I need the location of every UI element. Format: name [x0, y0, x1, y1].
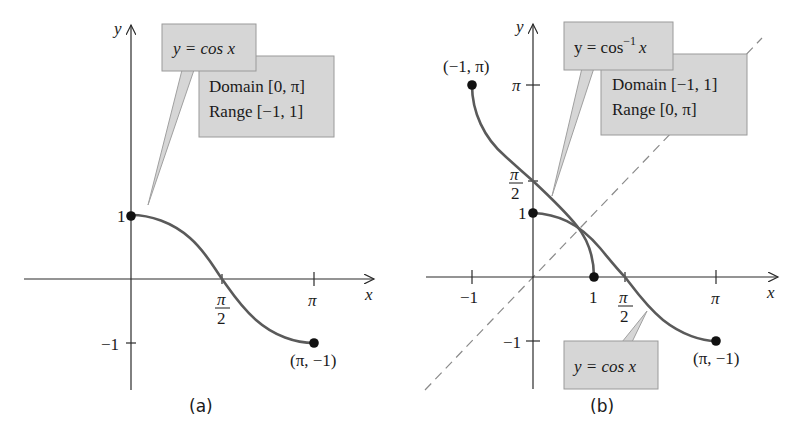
caption-b: (b) — [590, 396, 614, 416]
point-b-start-label: (−1, π) — [443, 57, 490, 76]
tick-label-b-x-pi: π — [711, 289, 720, 308]
point-b-cos-start — [528, 208, 538, 218]
point-b-arccos-end — [589, 272, 599, 282]
tick-label-b-y-1: 1 — [518, 204, 527, 223]
caption-a: (a) — [189, 396, 213, 416]
figure-canvas: y = cos x Domain [0, π] Range [−1, 1] x … — [0, 0, 795, 442]
x-axis-label-a: x — [364, 285, 373, 304]
callout-a-pointer — [148, 70, 194, 205]
tick-label-b-x-1: 1 — [589, 288, 598, 307]
tick-label-b-x-pi-half-num: π — [619, 288, 628, 307]
point-b-end-label: (π, −1) — [693, 349, 740, 368]
point-b-start — [467, 80, 477, 90]
tick-label-a-x-pi-half-num: π — [217, 290, 226, 309]
tick-label-a-y-1: 1 — [117, 207, 126, 226]
tick-label-b-y-pi-half-den: 2 — [511, 184, 520, 203]
point-a-end — [309, 338, 319, 348]
x-axis-label-b: x — [766, 283, 775, 302]
panel-a: y = cos x Domain [0, π] Range [−1, 1] x … — [24, 19, 374, 416]
panel-b: y = cos−1x Domain [−1, 1] Range [0, π] x… — [425, 17, 778, 416]
y-axis-label-b: y — [514, 17, 524, 36]
tick-label-a-x-pi: π — [308, 291, 317, 310]
tick-label-b-x-neg1: −1 — [460, 288, 478, 307]
tick-label-a-y-neg1: −1 — [101, 335, 119, 354]
tick-label-b-x-pi-half-den: 2 — [620, 307, 629, 326]
callout-b-inverse-pointer — [552, 68, 594, 196]
tick-label-b-y-neg1: −1 — [503, 333, 521, 352]
callout-b-domain: Domain [−1, 1] — [612, 75, 717, 94]
tick-label-b-y-pi: π — [512, 76, 521, 95]
point-a-end-label: (π, −1) — [290, 351, 337, 370]
point-a-start — [126, 211, 136, 221]
callout-b-cos-label: y = cos x — [572, 357, 636, 376]
tick-label-a-x-pi-half-den: 2 — [217, 309, 226, 328]
y-axis-label-a: y — [112, 19, 122, 38]
callout-b-range: Range [0, π] — [612, 100, 697, 119]
callout-a-range: Range [−1, 1] — [209, 102, 303, 121]
callout-a-function-label: y = cos x — [171, 39, 235, 58]
callout-a-domain: Domain [0, π] — [209, 77, 305, 96]
point-b-end — [711, 336, 721, 346]
